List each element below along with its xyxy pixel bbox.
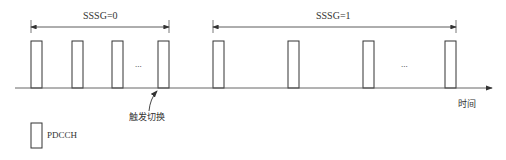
pdcch-boxes [31,41,456,88]
sssg1-label: SSSG=1 [316,11,351,21]
pdcch-box [445,41,456,88]
pdcch-box [213,41,224,88]
pdcch-box [72,41,83,88]
legend-pdcch-box [31,123,42,148]
pdcch-box [363,41,374,88]
pdcch-box [158,41,169,88]
ellipsis-1: ... [135,60,142,69]
ellipsis-2: ... [401,60,408,69]
trigger-switch-label: 触发切换 [129,113,165,122]
sssg0-label: SSSG=0 [83,11,118,21]
sssg0-span [31,20,169,33]
sssg1-span [213,20,456,33]
legend-pdcch-label: PDCCH [47,131,77,140]
trigger-arrow [149,91,157,111]
pdcch-box [288,41,299,88]
time-axis-label: 时间 [458,100,476,109]
pdcch-box [31,41,42,88]
pdcch-box [112,41,123,88]
